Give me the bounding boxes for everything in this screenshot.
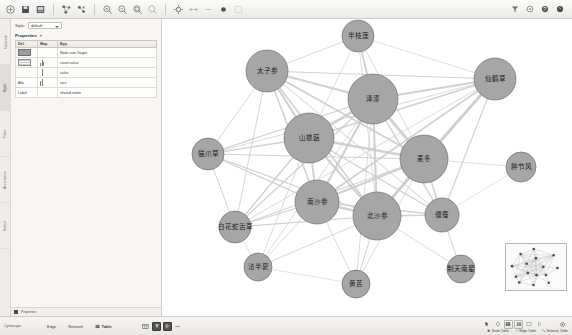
overview-edge [512,266,543,267]
edge-table-icon[interactable] [514,320,523,329]
group-nodes-icon[interactable] [232,3,245,16]
network-node[interactable]: 北沙参 [353,192,401,240]
cell-bypass[interactable]: Node.size.Target [58,48,157,58]
col-header-byp[interactable]: Byp. [58,41,157,48]
node-label: 北沙参 [367,211,388,220]
zoom-in-icon[interactable] [101,3,114,16]
table-row[interactable]: Abc size [16,78,157,88]
chevron-down-icon[interactable]: ▾ [40,33,42,38]
network-node[interactable]: 麦冬 [400,135,448,183]
grid-view-icon[interactable] [141,322,150,331]
cell-mapping[interactable] [38,68,58,78]
zoom-selected-icon[interactable] [146,3,159,16]
network-table-icon[interactable] [525,320,534,329]
node-table-tab[interactable]: Node Table [487,329,508,333]
network-node[interactable]: 半枝莲 [342,20,374,52]
status-bar: Cytoscape Edge Network Table [0,316,572,335]
tab-table[interactable]: Table [91,322,116,331]
network-node[interactable]: 肿节风 [506,152,536,182]
save-session-icon[interactable] [19,3,32,16]
select-mode-icon[interactable] [172,3,185,16]
node-label: 半枝莲 [348,31,369,40]
col-header-def[interactable]: Def. [16,41,38,48]
tab-edge[interactable]: Edge [43,322,60,331]
overview-node [532,248,535,251]
network-node[interactable]: 山慈菇 [284,113,334,163]
collapse-icon[interactable] [173,322,182,331]
network-node[interactable]: 黄芪 [342,270,370,298]
cell-bypass[interactable]: count.value [58,58,157,68]
node-label: 僵蚕 [435,210,449,219]
cell-default-label[interactable]: Label [16,88,38,98]
node-table-icon[interactable] [504,320,513,329]
help-icon[interactable]: ? [538,3,551,16]
sidebar-item-annotation[interactable]: Annotation [0,157,11,203]
arrow-cursor-icon[interactable] [482,320,491,329]
sidebar-item-filter[interactable]: Filter [0,111,11,157]
zoom-fit-icon[interactable] [131,3,144,16]
edge-table-tab[interactable]: Edge Table [515,329,536,333]
table-row[interactable]: Label shared name [16,88,157,98]
network-node[interactable]: 猫爪草 [192,138,224,170]
node-label: 肿节风 [511,162,532,171]
sidebar-item-select[interactable]: Select [0,203,11,249]
cell-bypass[interactable]: shared name [58,88,157,98]
cell-mapping[interactable] [38,88,58,98]
network-overview-panel[interactable] [505,243,567,291]
hide-selected-icon[interactable] [187,3,200,16]
toolbar-group-select [168,0,249,19]
pointer-icon[interactable] [535,320,544,329]
open-network-icon[interactable] [4,3,17,16]
apply-layout-icon[interactable] [60,3,73,16]
cell-bypass[interactable]: value [58,68,157,78]
node-label: 山慈菇 [299,133,320,142]
shape-swatch[interactable] [18,59,31,66]
network-node[interactable]: 制天南星 [447,255,475,283]
filter-icon[interactable] [508,3,521,16]
show-all-icon[interactable] [202,3,215,16]
table-row[interactable]: Node.size.Target [16,48,157,58]
app-store-icon[interactable] [553,3,566,16]
sidebar-item-style[interactable]: Style [0,65,11,111]
layout-settings-icon[interactable] [75,3,88,16]
network-edge[interactable] [358,36,495,79]
network-node[interactable]: 法半夏 [244,253,272,281]
network-node[interactable]: 僵蚕 [425,198,459,232]
table-row[interactable]: count.value [16,58,157,68]
toolbar-divider [53,4,54,15]
overview-edge [546,268,557,275]
delete-selected-icon[interactable] [217,3,230,16]
cell-mapping[interactable] [38,48,58,58]
cell-default-text[interactable]: Abc [16,78,38,88]
cell-default-stripe[interactable] [16,58,38,68]
filter-table-icon[interactable] [152,322,161,331]
zoom-out-icon[interactable] [116,3,129,16]
sidebar-item-network[interactable]: Network [0,19,11,65]
style-selector-dropdown[interactable]: default [28,22,62,29]
cell-bypass[interactable]: size [58,78,157,88]
col-header-map[interactable]: Map. [38,41,58,48]
cell-mapping[interactable] [38,78,58,88]
export-image-icon[interactable] [34,3,47,16]
label-sample-text: Label [18,91,27,95]
network-node[interactable]: 仙鹤草 [474,58,516,100]
network-edge[interactable] [442,79,495,215]
cell-default-fill[interactable] [16,48,38,58]
settings-table-icon[interactable] [163,322,172,331]
network-node[interactable]: 南沙参 [295,180,339,224]
network-overview-thumbnail[interactable] [506,244,566,290]
network-table-tab[interactable]: Network Table [542,329,568,333]
network-canvas[interactable]: 半枝莲太子参仙鹤草泽漆山慈菇麦冬猫爪草肿节风南沙参北沙参僵蚕白花蛇舌草法半夏黄芪… [162,19,572,316]
cell-default-none[interactable] [16,68,38,78]
network-edge[interactable] [258,267,356,284]
annotation-icon[interactable] [523,3,536,16]
fill-color-swatch[interactable] [18,49,31,56]
table-row[interactable]: value [16,68,157,78]
network-node[interactable]: 泽漆 [348,74,398,124]
node-shape-icon[interactable] [493,320,502,329]
overview-node [552,254,555,257]
tab-network[interactable]: Network [64,322,87,331]
target-icon[interactable] [558,320,567,329]
cell-mapping[interactable] [38,58,58,68]
network-node[interactable]: 太子参 [246,50,288,92]
